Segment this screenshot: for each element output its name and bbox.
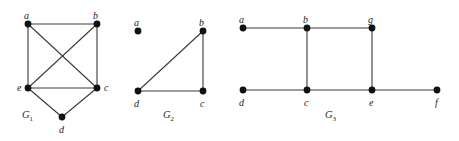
graph-name-base: G <box>163 109 171 120</box>
graph-vertex <box>240 87 247 94</box>
graph-vertex <box>59 114 66 121</box>
graph-edge <box>62 88 97 117</box>
vertex-label: a <box>24 11 29 21</box>
vertex-label: e <box>17 83 21 93</box>
vertex-label: c <box>304 98 308 108</box>
graph-vertex <box>304 87 311 94</box>
graph-name-subscript: 1 <box>30 115 34 123</box>
vertex-label: d <box>134 99 139 109</box>
graph-vertex <box>94 85 101 92</box>
vertex-label: b <box>93 11 98 21</box>
graph-name-label-g3: G3 <box>325 110 336 123</box>
graph-vertex <box>25 21 32 28</box>
vertices-layer <box>25 21 441 121</box>
vertex-label: a <box>134 18 139 28</box>
graph-vertex <box>200 28 207 35</box>
graph-vertex <box>200 88 207 95</box>
graph-vertex <box>25 85 32 92</box>
edges-layer <box>28 24 437 117</box>
vertex-label: b <box>303 15 308 25</box>
graph-figure: abecdG1abdcG2abgdcefG3 <box>0 0 459 141</box>
graph-vertex <box>240 25 247 32</box>
graph-name-base: G <box>325 109 333 120</box>
graph-vertex <box>135 88 142 95</box>
vertex-label: b <box>199 18 204 28</box>
graph-vertex <box>94 21 101 28</box>
graph-vertex <box>434 87 441 94</box>
vertex-label: e <box>369 98 373 108</box>
graph-edge <box>28 88 62 117</box>
graph-vertex <box>369 25 376 32</box>
vertex-label: d <box>239 98 244 108</box>
vertex-label: c <box>200 99 204 109</box>
graph-name-subscript: 3 <box>333 115 337 123</box>
vertex-label: c <box>104 83 108 93</box>
graph-name-subscript: 2 <box>171 115 175 123</box>
graph-name-label-g1: G1 <box>22 110 33 123</box>
graph-canvas <box>0 0 459 141</box>
graph-vertex <box>135 28 142 35</box>
graph-vertex <box>369 87 376 94</box>
vertex-label: g <box>368 15 373 25</box>
graph-vertex <box>304 25 311 32</box>
vertex-label: a <box>239 15 244 25</box>
graph-edge <box>138 31 203 91</box>
graph-name-label-g2: G2 <box>163 110 174 123</box>
vertex-label: d <box>59 125 64 135</box>
graph-name-base: G <box>22 109 30 120</box>
vertex-label: f <box>435 98 438 108</box>
